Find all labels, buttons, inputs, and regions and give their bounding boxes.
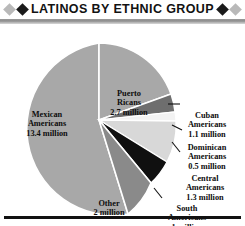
- label-line-1: Cuban: [174, 111, 240, 120]
- diamond-light-icon: [229, 3, 242, 16]
- label-line-1: Puerto: [100, 89, 158, 98]
- label-line-1: Mexican: [8, 110, 86, 119]
- label-value: 1.3 million: [172, 193, 238, 202]
- pie-chart: Mexican Americans 13.4 million Puerto Ri…: [0, 26, 245, 216]
- title-row: LATINOS BY ETHNIC GROUP: [0, 0, 245, 18]
- label-line-1: South: [156, 204, 218, 213]
- label-line-2: Americans: [8, 119, 86, 128]
- label-line-2: Americans: [174, 120, 240, 129]
- label-line-1: Central: [172, 174, 238, 183]
- chart-page: LATINOS BY ETHNIC GROUP: [0, 0, 245, 226]
- chart-header: LATINOS BY ETHNIC GROUP: [0, 0, 245, 26]
- label-cuban-americans: Cuban Americans 1.1 million: [174, 111, 240, 139]
- leader-line-south: [154, 188, 162, 198]
- label-line-2: Americans: [174, 152, 240, 161]
- label-line-2: Americans: [172, 183, 238, 192]
- footer-rule: [4, 216, 241, 219]
- label-line-1: Dominican: [174, 143, 240, 152]
- label-line-1: Other: [84, 199, 134, 208]
- diamond-dark-icon: [16, 3, 29, 16]
- label-puerto-ricans: Puerto Ricans 2.7 million: [100, 89, 158, 117]
- diamond-dark-icon: [216, 3, 229, 16]
- label-value: 13.4 million: [8, 129, 86, 138]
- label-central-americans: Central Americans 1.3 million: [172, 174, 238, 202]
- page-title: LATINOS BY ETHNIC GROUP: [31, 3, 214, 16]
- label-value: 1 million: [156, 223, 218, 226]
- label-value: 1.1 million: [174, 130, 240, 139]
- diamond-light-icon: [3, 3, 16, 16]
- label-south-americans: South Americans 1 million: [156, 204, 218, 226]
- label-line-2: Ricans: [100, 98, 158, 107]
- header-rule: [0, 19, 245, 24]
- label-mexican-americans: Mexican Americans 13.4 million: [8, 110, 86, 138]
- label-value: 2.7 million: [100, 108, 158, 117]
- label-other: Other 2 million: [84, 199, 134, 218]
- label-value: 0.5 million: [174, 162, 240, 171]
- label-dominican-americans: Dominican Americans 0.5 million: [174, 143, 240, 171]
